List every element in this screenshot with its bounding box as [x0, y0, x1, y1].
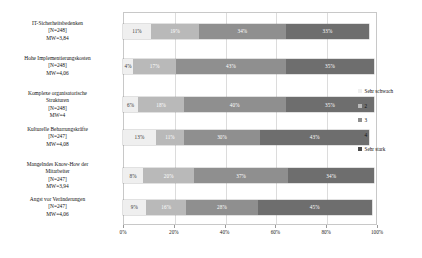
bar-segment: 13% — [123, 130, 156, 145]
x-tick — [326, 225, 327, 228]
bar-segment: 45% — [258, 200, 372, 215]
category-label: Angst vor Veränderungen[N=247]MW=4,06 — [0, 196, 118, 218]
bar-segment: 28% — [186, 200, 257, 215]
category-label: Mangelndes Know-How derMitarbeiter[N=247… — [0, 161, 118, 191]
x-tick-label: 80% — [321, 229, 331, 235]
category-label-line: Mangelndes Know-How der — [0, 161, 115, 168]
category-label-line: Mitarbeiter — [0, 168, 115, 175]
legend-label: Sehr stark — [365, 146, 386, 152]
bar-segment: 34% — [288, 168, 374, 183]
bar-row: Mangelndes Know-How derMitarbeiter[N=247… — [0, 161, 422, 191]
category-label: Komplexe organisatorischeStrukturen[N=24… — [0, 90, 118, 120]
x-tick-label: 60% — [271, 229, 281, 235]
x-tick — [225, 225, 226, 228]
category-label: Kulturelle Beharrungskräfte[N=247]MW=4,0… — [0, 126, 118, 148]
stacked-bar: 6%18%40%35% — [123, 97, 374, 112]
legend-label: 3 — [365, 117, 368, 123]
bar-segment: 4% — [123, 59, 133, 74]
stacked-bar: 4%17%43%35% — [123, 59, 374, 74]
legend-swatch-icon — [358, 118, 362, 122]
legend-label: 4 — [365, 132, 368, 138]
stacked-bar: 9%16%28%45% — [123, 200, 372, 215]
stacked-bar-chart: IT-Sicherheitsbedenken[N=248]MW=3,8411%1… — [0, 0, 422, 258]
category-label-line: [N=247] — [0, 133, 115, 140]
bar-segment: 11% — [123, 24, 151, 39]
bar-segment: 40% — [184, 97, 286, 112]
x-tick-label: 0% — [120, 229, 127, 235]
category-label-line: [N=248] — [0, 62, 115, 69]
category-label-line: MW=4,06 — [0, 211, 115, 218]
x-axis: 0%20%40%60%80%100% — [123, 225, 377, 241]
legend-item[interactable]: 4 — [358, 132, 420, 138]
x-tick — [174, 225, 175, 228]
legend-swatch-icon — [358, 147, 362, 151]
bar-segment: 11% — [156, 130, 184, 145]
category-label-line: [N=247] — [0, 176, 115, 183]
legend-item[interactable]: Sehr stark — [358, 146, 420, 152]
category-label-line: Komplexe organisatorische — [0, 90, 115, 97]
bar-segment: 37% — [194, 168, 288, 183]
legend-label: Sehr schwach — [365, 88, 394, 94]
category-label: IT-Sicherheitsbedenken[N=248]MW=3,84 — [0, 20, 118, 42]
bar-segment: 16% — [146, 200, 187, 215]
x-tick — [275, 225, 276, 228]
category-label-line: MW=3,84 — [0, 35, 115, 42]
bar-segment: 19% — [151, 24, 199, 39]
bar-segment: 8% — [123, 168, 143, 183]
bar-row: Hohe Implementierungskosten[N=248]MW=4,0… — [0, 55, 422, 77]
category-label: Hohe Implementierungskosten[N=248]MW=4,0… — [0, 55, 118, 77]
bar-row: Angst vor Veränderungen[N=247]MW=4,069%1… — [0, 196, 422, 218]
category-label-line: [N=248] — [0, 105, 115, 112]
bar-segment: 35% — [286, 59, 375, 74]
legend-item[interactable]: Sehr schwach — [358, 88, 420, 94]
category-label-line: [N=248] — [0, 27, 115, 34]
category-label-line: MW=4,06 — [0, 70, 115, 77]
bar-segment: 9% — [123, 200, 146, 215]
x-tick-label: 40% — [220, 229, 230, 235]
bar-segment: 18% — [138, 97, 184, 112]
bar-segment: 6% — [123, 97, 138, 112]
stacked-bar: 13%11%30%43% — [123, 130, 369, 145]
category-label-line: Hohe Implementierungskosten — [0, 55, 115, 62]
bar-row: IT-Sicherheitsbedenken[N=248]MW=3,8411%1… — [0, 20, 422, 42]
category-label-line: MW=4,08 — [0, 141, 115, 148]
legend-swatch-icon — [358, 89, 362, 93]
category-label-line: Angst vor Veränderungen — [0, 196, 115, 203]
bar-segment: 20% — [143, 168, 194, 183]
category-label-line: Strukturen — [0, 97, 115, 104]
x-tick-label: 20% — [169, 229, 179, 235]
legend-swatch-icon — [358, 133, 362, 137]
category-label-line: MW=3,94 — [0, 183, 115, 190]
bar-segment: 33% — [286, 24, 370, 39]
chart-legend: Sehr schwach234Sehr stark — [358, 88, 420, 161]
category-label-line: IT-Sicherheitsbedenken — [0, 20, 115, 27]
stacked-bar: 8%20%37%34% — [123, 168, 374, 183]
legend-item[interactable]: 3 — [358, 117, 420, 123]
x-tick — [123, 225, 124, 228]
legend-label: 2 — [365, 103, 368, 109]
category-label-line: MW=4 — [0, 112, 115, 119]
bar-segment: 43% — [176, 59, 285, 74]
bar-segment: 34% — [199, 24, 285, 39]
legend-item[interactable]: 2 — [358, 103, 420, 109]
category-label-line: [N=247] — [0, 203, 115, 210]
bar-segment: 17% — [133, 59, 176, 74]
x-tick-label: 100% — [371, 229, 383, 235]
bar-segment: 30% — [184, 130, 260, 145]
category-label-line: Kulturelle Beharrungskräfte — [0, 126, 115, 133]
x-tick — [377, 225, 378, 228]
stacked-bar: 11%19%34%33% — [123, 24, 369, 39]
legend-swatch-icon — [358, 104, 362, 108]
bar-segment: 43% — [260, 130, 369, 145]
